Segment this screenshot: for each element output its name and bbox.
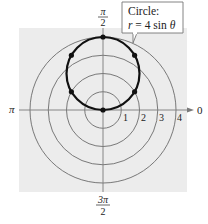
angle-label-3pi-over-2: 3π 2: [96, 194, 110, 217]
callout-theta: θ: [170, 19, 176, 31]
svg-text:Circle:: Circle:: [128, 5, 159, 17]
svg-text:3π: 3π: [97, 194, 109, 205]
tick-label-1: 1: [123, 112, 128, 123]
point-pi-3: [132, 53, 137, 58]
callout-eq: = 4 sin: [132, 19, 169, 31]
tick-label-2: 2: [141, 112, 146, 123]
point-pi-6: [132, 89, 137, 94]
point-pi-2: [100, 34, 105, 39]
angle-label-0: 0: [197, 104, 203, 116]
polar-graph: 1 2 3 4 π 0 π 2 3π 2 Circle: r = 4 sin θ: [0, 0, 208, 224]
point-2pi-3: [69, 53, 74, 58]
point-5pi-6: [69, 89, 74, 94]
angle-label-pi: π: [9, 103, 15, 115]
svg-text:r = 4 sin θ: r = 4 sin θ: [128, 19, 176, 31]
arrow-right-icon: [187, 108, 194, 113]
tick-label-4: 4: [177, 112, 182, 123]
svg-text:2: 2: [101, 206, 106, 217]
tick-label-3: 3: [159, 112, 164, 123]
angle-label-pi-over-2: π 2: [98, 6, 108, 28]
svg-text:π: π: [100, 6, 106, 17]
svg-text:2: 2: [101, 17, 106, 28]
point-origin: [100, 107, 105, 112]
